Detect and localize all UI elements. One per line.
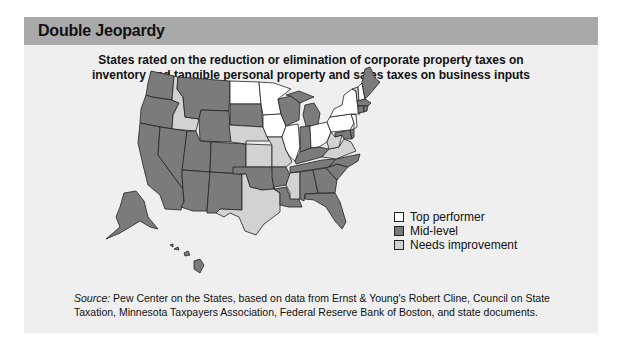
chart-panel: Double Jeopardy States rated on the redu… xyxy=(24,17,598,333)
state-new-mexico xyxy=(207,172,242,213)
legend: Top performer Mid-level Needs improvemen… xyxy=(394,210,517,252)
source-note: Source: Pew Center on the States, based … xyxy=(74,291,594,319)
us-map xyxy=(24,17,598,333)
state-north-dakota xyxy=(230,81,261,104)
swatch-needs-improvement xyxy=(394,240,404,250)
swatch-top-performer xyxy=(394,212,404,222)
state-rhode-island xyxy=(364,106,368,112)
state-wyoming xyxy=(199,110,231,142)
legend-item-top-performer: Top performer xyxy=(394,210,517,224)
swatch-mid-level xyxy=(394,226,404,236)
state-hawaii xyxy=(170,244,204,273)
state-maine xyxy=(362,67,380,99)
legend-item-mid-level: Mid-level xyxy=(394,224,517,238)
source-label: Source: xyxy=(74,292,110,304)
state-new-york xyxy=(330,89,360,117)
state-south-dakota xyxy=(230,104,263,127)
state-indiana xyxy=(300,126,311,152)
state-connecticut xyxy=(358,106,364,113)
state-kansas xyxy=(246,144,272,167)
legend-item-needs-improvement: Needs improvement xyxy=(394,238,517,252)
state-florida xyxy=(305,193,346,229)
state-washington xyxy=(146,71,174,100)
state-arizona xyxy=(181,170,210,211)
state-alaska xyxy=(106,191,158,239)
